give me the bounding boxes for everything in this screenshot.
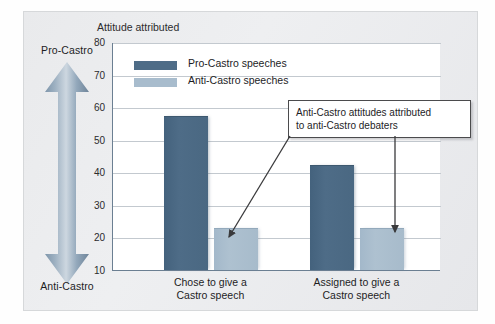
y-axis-tick-label: 70 [77,70,105,81]
annotation-line-2: to anti-Castro debaters [296,119,463,132]
y-axis-tick-label: 80 [77,37,105,48]
legend-swatch-anti-castro [134,78,177,87]
bar-anti-castro [360,228,404,270]
bar-pro-castro [310,165,354,270]
category-label-line: Chose to give a [135,276,285,289]
category-label-line: Castro speech [281,289,431,302]
y-axis-tick-label: 20 [77,232,105,243]
gridline [113,206,441,207]
gridline [113,141,441,142]
bar-pro-castro [164,116,208,270]
category-label-line: Castro speech [135,289,285,302]
y-axis-tick-label: 50 [77,135,105,146]
legend-swatch-pro-castro [134,61,177,70]
anti-castro-pole-label: Anti-Castro [28,280,106,292]
annotation-callout: Anti-Castro attitudes attributed to anti… [288,100,471,138]
x-axis-category-label: Chose to give aCastro speech [135,276,285,302]
y-axis-tick-label: 30 [77,200,105,211]
bar-anti-castro [214,228,258,270]
x-axis-category-label: Assigned to give aCastro speech [281,276,431,302]
y-axis-tick-label: 10 [77,265,105,276]
y-axis-tick-label: 60 [77,102,105,113]
chart-figure: Pro-Castro Anti-Castro Attitude attribut… [0,0,495,324]
annotation-line-1: Anti-Castro attitudes attributed [296,106,463,119]
gridline [113,43,441,44]
gridline [113,173,441,174]
legend-label: Pro-Castro speeches [188,57,287,69]
y-axis-tick-label: 40 [77,167,105,178]
category-label-line: Assigned to give a [281,276,431,289]
legend-label: Anti-Castro speeches [188,74,288,86]
chart-title: Attitude attributed [97,21,179,33]
